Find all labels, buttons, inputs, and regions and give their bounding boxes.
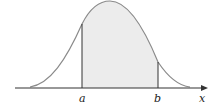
label-a: a [79,92,86,105]
normal-curve-diagram: a b x [0,0,220,109]
x-axis-arrow-icon [201,85,208,91]
shaded-area [82,1,158,88]
label-b: b [154,92,161,105]
label-x: x [199,92,206,105]
